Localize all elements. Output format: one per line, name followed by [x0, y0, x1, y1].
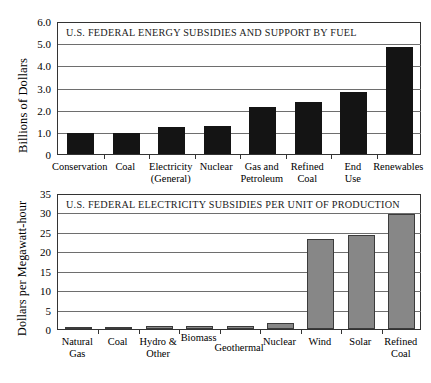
- label-line-1: Electricity: [149, 161, 192, 172]
- label-line-1: Wind: [309, 336, 332, 347]
- x-axis-tick-label: Biomass: [181, 332, 217, 344]
- label-line-1: Conservation: [52, 161, 107, 172]
- bar: [295, 102, 322, 154]
- bar-series-top: [58, 22, 421, 154]
- x-axis-tick: [382, 330, 383, 334]
- y-axis-tick-label: 5.0: [37, 39, 51, 50]
- label-line-1: Refined: [291, 161, 324, 172]
- y-axis-tick-label: 3.0: [37, 83, 51, 94]
- x-axis-tick-label: EndUse: [344, 161, 361, 184]
- bar: [186, 326, 213, 329]
- x-axis-tick-label: Electricity(General): [149, 161, 192, 184]
- x-axis-tick-label: Hydro &Other: [139, 336, 176, 359]
- label-line-1: Refined: [384, 336, 417, 347]
- label-line-2: (General): [149, 173, 192, 185]
- label-line-1: Coal: [115, 161, 135, 172]
- label-line-1: Solar: [349, 336, 371, 347]
- plot-area-bottom: U.S. FEDERAL ELECTRICITY SUBSIDIES PER U…: [57, 194, 421, 330]
- x-axis-tick-label: NaturalGas: [62, 336, 93, 359]
- x-axis-tick: [220, 330, 221, 334]
- bar: [67, 133, 94, 154]
- y-axis-tick-labels-bottom: 05101520253035: [25, 194, 51, 330]
- figure-two-bar-charts: Billions of Dollars 01.02.03.04.05.06.0 …: [0, 0, 431, 383]
- x-axis-tick-label: Solar: [349, 336, 371, 348]
- y-axis-tick-label: 2.0: [37, 105, 51, 116]
- bar-series-bottom: [58, 194, 421, 329]
- label-line-2: Petroleum: [240, 173, 283, 185]
- x-axis-tick-label: Wind: [309, 336, 332, 348]
- y-axis-tick-label: 15: [40, 266, 51, 277]
- bar: [204, 126, 231, 154]
- x-axis-tick: [139, 330, 140, 334]
- label-line-2: Other: [139, 348, 176, 360]
- y-axis-tick-label: 6.0: [37, 17, 51, 28]
- bar: [267, 323, 294, 329]
- x-axis-tick: [301, 330, 302, 334]
- x-axis-tick: [286, 155, 287, 159]
- bar: [348, 235, 375, 329]
- x-axis-tick-label: Coal: [115, 161, 135, 173]
- x-axis-tick: [195, 155, 196, 159]
- bar: [388, 214, 415, 329]
- x-axis-tick-label: Geothermal: [214, 342, 263, 354]
- bar: [146, 326, 173, 329]
- x-axis-tick-label: Renewables: [373, 161, 423, 173]
- y-axis-tick-label: 30: [40, 208, 51, 219]
- x-axis-tick-label: Coal: [108, 336, 128, 348]
- y-axis-tick-labels-top: 01.02.03.04.05.06.0: [25, 22, 51, 155]
- x-axis-tick-label: Conservation: [52, 161, 107, 173]
- y-axis-tick-label: 4.0: [37, 61, 51, 72]
- label-line-1: Natural: [62, 336, 93, 347]
- x-axis-tick: [104, 155, 105, 159]
- bar: [249, 107, 276, 154]
- x-axis-tick: [149, 155, 150, 159]
- x-axis-tick: [240, 155, 241, 159]
- plot-area-top: U.S. FEDERAL ENERGY SUBSIDIES AND SUPPOR…: [57, 22, 421, 155]
- bar: [158, 127, 185, 154]
- bar: [113, 133, 140, 154]
- x-axis-tick-label: RefinedCoal: [384, 336, 417, 359]
- chart-electricity-subsidies-per-unit: Dollars per Megawatt-hour 05101520253035…: [0, 186, 431, 383]
- bar: [227, 326, 254, 329]
- x-axis-tick-label: Nuclear: [263, 336, 296, 348]
- x-axis-tick: [341, 330, 342, 334]
- label-line-2: Coal: [291, 173, 324, 185]
- x-axis-tick: [260, 330, 261, 334]
- bar: [65, 327, 92, 329]
- label-line-1: Nuclear: [263, 336, 296, 347]
- label-line-1: Biomass: [181, 332, 217, 343]
- bar: [340, 92, 367, 154]
- label-line-1: Nuclear: [200, 161, 233, 172]
- y-axis-tick-label: 20: [40, 247, 51, 258]
- label-line-1: End: [344, 161, 361, 172]
- x-axis-tick: [98, 330, 99, 334]
- label-line-2: Use: [344, 173, 361, 185]
- y-axis-tick-label: 10: [40, 286, 51, 297]
- label-line-1: Coal: [108, 336, 128, 347]
- label-line-2: Coal: [384, 348, 417, 360]
- label-line-1: Renewables: [373, 161, 423, 172]
- bar: [386, 47, 413, 154]
- x-axis-tick: [377, 155, 378, 159]
- bar: [307, 239, 334, 329]
- label-line-1: Geothermal: [214, 342, 263, 353]
- bar: [105, 327, 132, 329]
- y-axis-tick-label: 0: [46, 325, 52, 336]
- x-axis-tick-label: Gas andPetroleum: [240, 161, 283, 184]
- x-axis-tick-label: RefinedCoal: [291, 161, 324, 184]
- x-axis-tick-label: Nuclear: [200, 161, 233, 173]
- chart-energy-subsidies-by-fuel: Billions of Dollars 01.02.03.04.05.06.0 …: [0, 8, 431, 188]
- x-axis-tick: [331, 155, 332, 159]
- y-axis-tick-label: 1.0: [37, 127, 51, 138]
- label-line-2: Gas: [62, 348, 93, 360]
- y-axis-tick-label: 35: [40, 189, 51, 200]
- label-line-1: Hydro &: [139, 336, 176, 347]
- y-axis-tick-label: 0: [46, 150, 52, 161]
- y-axis-tick-label: 25: [40, 227, 51, 238]
- label-line-1: Gas and: [245, 161, 279, 172]
- y-axis-tick-label: 5: [46, 305, 52, 316]
